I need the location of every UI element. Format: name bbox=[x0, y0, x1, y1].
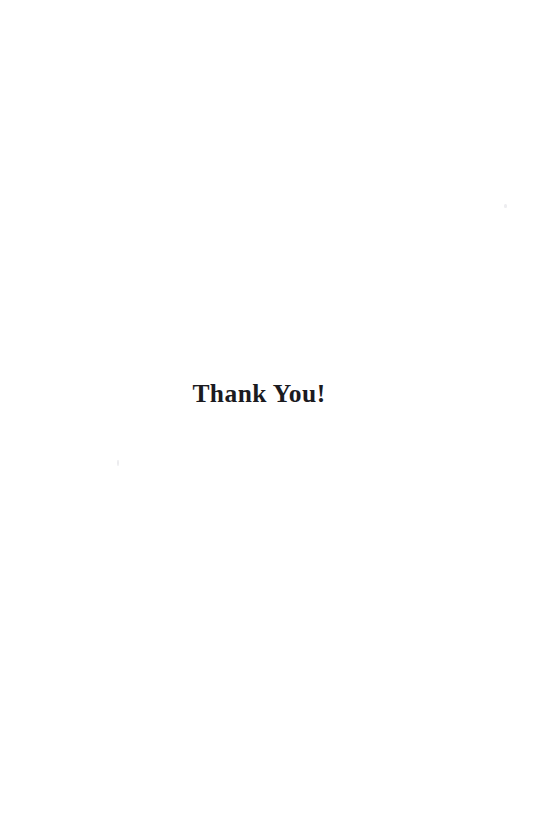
thank-you-block: Thank You! bbox=[0, 0, 538, 831]
thank-you-heading: Thank You! bbox=[192, 381, 325, 407]
document-page: Thank You! bbox=[0, 0, 538, 831]
